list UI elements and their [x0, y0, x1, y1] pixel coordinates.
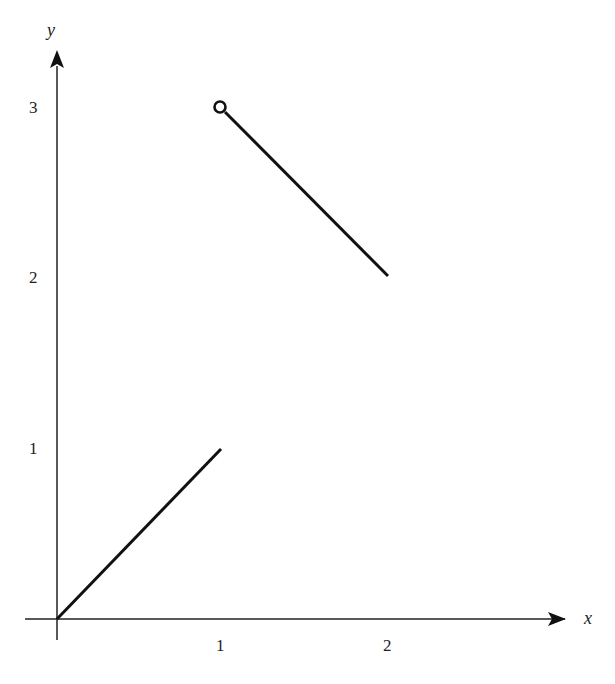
y-tick-label-2: 2 — [29, 268, 38, 287]
y-tick-label-1: 1 — [29, 439, 38, 458]
segment-2-line — [225, 112, 388, 276]
open-circle-endpoint-icon — [215, 102, 226, 113]
y-axis-label: y — [45, 20, 55, 40]
y-axis-arrow-icon — [50, 50, 64, 68]
x-tick-label-1: 1 — [216, 636, 225, 655]
y-tick-label-3: 3 — [29, 98, 38, 117]
x-tick-label-2: 2 — [383, 636, 392, 655]
segment-1-line — [57, 449, 221, 619]
piecewise-function-plot: x y 1 2 1 2 3 — [0, 0, 615, 684]
x-axis-label: x — [583, 608, 592, 628]
